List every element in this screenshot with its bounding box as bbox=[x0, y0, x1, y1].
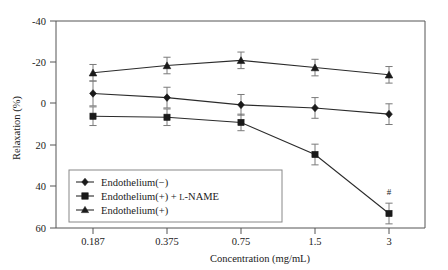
square-marker-icon bbox=[312, 151, 318, 157]
y-tick-label: -40 bbox=[32, 16, 46, 27]
chart-legend: Endothelium(−) Endothelium(+) + L-NAME E… bbox=[69, 170, 282, 222]
x-tick-label: 3 bbox=[386, 236, 391, 247]
square-marker-icon bbox=[82, 193, 88, 199]
legend-label: Endothelium(+) + L-NAME bbox=[101, 191, 219, 203]
y-tick-label: 60 bbox=[36, 223, 47, 234]
x-tick-label: 0.187 bbox=[81, 236, 105, 247]
square-marker-icon bbox=[238, 119, 244, 125]
y-tick-label: 40 bbox=[36, 181, 47, 192]
square-marker-icon bbox=[386, 210, 392, 216]
y-tick-label: 0 bbox=[41, 98, 46, 109]
y-tick-label: 20 bbox=[36, 140, 47, 151]
legend-label-post: -NAME bbox=[185, 191, 219, 202]
legend-label: Endothelium(+) bbox=[101, 205, 169, 217]
x-tick-label: 1.5 bbox=[308, 236, 321, 247]
square-marker-icon bbox=[90, 113, 96, 119]
y-axis-title: Relaxation (%) bbox=[11, 96, 23, 160]
annotation-layer: # bbox=[387, 187, 392, 197]
x-tick-label: 0.75 bbox=[232, 236, 250, 247]
relaxation-concentration-chart: -40 -20 0 20 40 60 0.187 0.375 0.75 1.5 … bbox=[0, 0, 448, 270]
x-axis-title: Concentration (mg/mL) bbox=[210, 253, 311, 265]
legend-label: Endothelium(−) bbox=[101, 177, 169, 189]
x-tick-label: 0.375 bbox=[155, 236, 179, 247]
y-tick-label: -20 bbox=[32, 57, 46, 68]
chart-background bbox=[0, 0, 448, 270]
significance-annotation: # bbox=[387, 187, 392, 197]
square-marker-icon bbox=[164, 114, 170, 120]
legend-label-pre: Endothelium(+) + bbox=[101, 191, 179, 203]
